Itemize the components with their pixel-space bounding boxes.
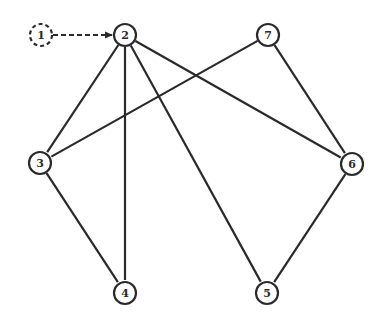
- graph-diagram: 1234567: [0, 0, 384, 323]
- node-label: 1: [37, 29, 45, 42]
- edge-7-6: [275, 45, 345, 153]
- edge-3-4: [47, 173, 118, 282]
- node-label: 7: [264, 29, 272, 42]
- node-7: 7: [257, 24, 279, 46]
- node-label: 4: [121, 287, 129, 300]
- node-4: 4: [114, 282, 136, 304]
- node-5: 5: [256, 282, 278, 304]
- node-label: 3: [36, 157, 44, 170]
- node-label: 5: [263, 287, 271, 300]
- node-1: 1: [30, 24, 52, 46]
- node-2: 2: [114, 24, 136, 46]
- edge-6-5: [274, 174, 345, 282]
- node-3: 3: [29, 152, 51, 174]
- node-6: 6: [341, 153, 363, 175]
- node-label: 2: [121, 29, 129, 42]
- edge-2-5: [131, 46, 261, 282]
- edge-2-3: [47, 45, 118, 152]
- edges-layer: [47, 35, 346, 282]
- node-label: 6: [348, 158, 356, 171]
